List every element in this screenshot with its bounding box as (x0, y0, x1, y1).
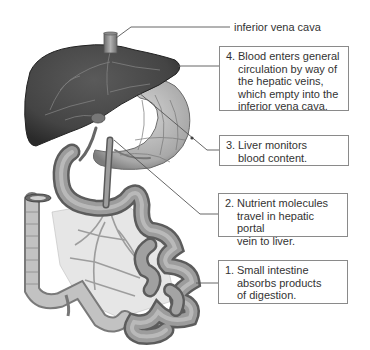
step-2-text: Nutrient molecules travel in hepatic por… (237, 197, 343, 247)
step-1-number: 1. (225, 264, 237, 302)
step-4-box: 4. Blood enters general circulation by w… (219, 46, 349, 111)
step-3-number: 3. (226, 139, 238, 164)
step-2-number: 2. (225, 197, 237, 247)
step-4-number: 4. (226, 50, 238, 113)
step-2-box: 2. Nutrient molecules travel in hepatic … (218, 193, 348, 237)
hepatic-portal-diagram: inferior vena cava 4. Blood enters gener… (0, 0, 370, 350)
step-1-text: Small intestine absorbs products of dige… (237, 264, 343, 302)
step-4-text: Blood enters general circulation by way … (238, 50, 344, 113)
step-3-text: Liver monitors blood content. (238, 139, 344, 164)
label-inferior-vena-cava: inferior vena cava (234, 21, 321, 34)
gallbladder (91, 113, 105, 123)
step-1-box: 1. Small intestine absorbs products of d… (218, 260, 348, 304)
leader-line-ivc (116, 27, 230, 38)
inferior-vena-cava (104, 32, 117, 53)
step-3-box: 3. Liver monitors blood content. (219, 135, 349, 166)
